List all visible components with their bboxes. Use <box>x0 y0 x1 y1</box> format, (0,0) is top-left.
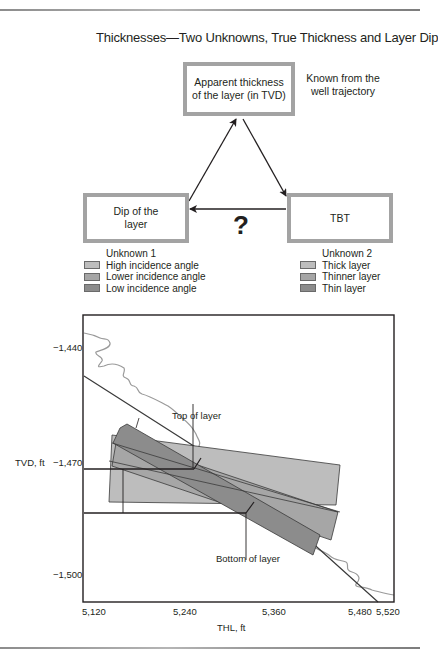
y-axis-label: TVD, ft <box>15 457 45 468</box>
x-axis-label: THL, ft <box>217 622 246 633</box>
x-tick-5360: 5,360 <box>262 606 286 617</box>
x-tick-5480: 5,480 <box>348 606 372 617</box>
x-tick-5240: 5,240 <box>173 606 197 617</box>
y-tick-1440: −1,440 <box>53 342 82 353</box>
x-tick-5520: 5,520 <box>376 606 400 617</box>
y-tick-1500: −1,500 <box>53 569 82 580</box>
y-tick-1470: −1,470 <box>53 457 82 468</box>
x-tick-5120: 5,120 <box>82 606 106 617</box>
annotation-top-of-layer: Top of layer <box>172 410 221 421</box>
annotation-bottom-of-layer: Bottom of layer <box>216 553 280 564</box>
